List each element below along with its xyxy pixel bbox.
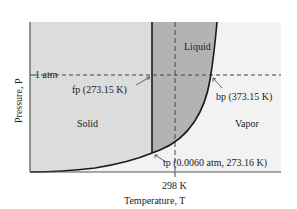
freezing-point-label: fp (273.15 K) [72,85,127,95]
liquid-label: Liquid [184,42,211,52]
solid-label: Solid [77,119,98,129]
solid-region [30,22,152,172]
triple-point-label: tp (0.0060 atm, 273.16 K) [163,158,267,168]
vapor-label: Vapor [235,119,259,129]
phase-diagram-plot [0,0,297,209]
y-tick-label: 1 atm [35,70,58,80]
y-axis-label: Pressure, P [14,79,24,123]
boiling-point-label: bp (373.15 K) [216,92,272,102]
x-tick-label: 298 K [162,181,187,191]
x-axis-label: Temperature, T [124,196,185,206]
